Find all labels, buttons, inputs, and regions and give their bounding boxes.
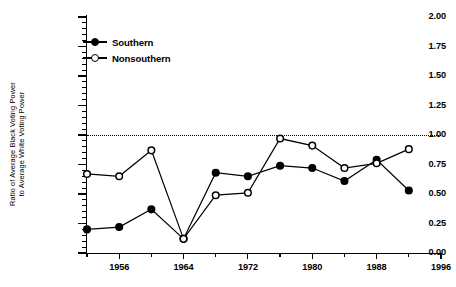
series-line	[87, 139, 409, 239]
data-point	[148, 206, 155, 213]
legend-item-southern: Southern	[82, 34, 171, 50]
data-point	[373, 160, 380, 167]
data-point	[116, 224, 123, 231]
data-point	[148, 147, 155, 154]
data-point	[212, 192, 219, 199]
legend-label-southern: Southern	[112, 37, 153, 48]
chart-legend: Southern Nonsouthern	[82, 34, 171, 66]
legend-item-nonsouthern: Nonsouthern	[82, 50, 171, 66]
legend-marker-filled-circle-icon	[82, 36, 108, 48]
series-southern	[84, 156, 412, 242]
data-point	[116, 173, 123, 180]
data-point	[180, 236, 187, 243]
data-point	[277, 162, 284, 169]
data-point	[406, 187, 413, 194]
data-point	[341, 178, 348, 185]
data-point	[277, 135, 284, 142]
data-point	[341, 165, 348, 172]
data-point	[406, 146, 413, 153]
legend-marker-open-circle-icon	[82, 52, 108, 64]
data-point	[212, 169, 219, 176]
data-point	[84, 226, 91, 233]
data-point	[245, 173, 252, 180]
legend-label-nonsouthern: Nonsouthern	[112, 53, 171, 64]
data-point	[309, 165, 316, 172]
series-line	[87, 160, 409, 239]
data-point	[245, 190, 252, 197]
data-point	[84, 171, 91, 178]
data-point	[309, 142, 316, 149]
series-nonsouthern	[84, 135, 412, 242]
